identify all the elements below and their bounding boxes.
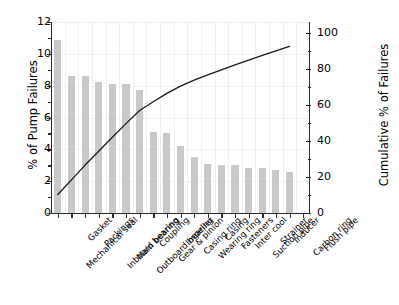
y-axis-right-title: Cumulative % of Failures xyxy=(377,20,391,210)
y-ticklabel-right: 20 xyxy=(317,171,357,182)
y-ticklabel-left: 2 xyxy=(11,175,51,186)
y-ticklabel-left: 6 xyxy=(11,112,51,123)
cumulative-line-series xyxy=(51,22,310,213)
pareto-chart: % of Pump Failures Cumulative % of Failu… xyxy=(0,0,399,305)
y-ticklabel-right: 100 xyxy=(317,27,357,38)
y-ticklabel-left: 10 xyxy=(11,48,51,59)
cumulative-polyline xyxy=(58,46,290,194)
y-ticklabel-right: 80 xyxy=(317,63,357,74)
y-ticklabel-left: 0 xyxy=(11,207,51,218)
y-ticklabel-left: 4 xyxy=(11,143,51,154)
y-ticklabel-left: 12 xyxy=(11,16,51,27)
y-ticklabel-right: 40 xyxy=(317,135,357,146)
x-axis-category-labels: Mechanical sealGasketPackingsInboard bea… xyxy=(51,215,371,305)
y-ticklabel-left: 8 xyxy=(11,80,51,91)
plot-area: 024681012020406080100 xyxy=(51,22,310,213)
y-ticklabel-right: 60 xyxy=(317,99,357,110)
